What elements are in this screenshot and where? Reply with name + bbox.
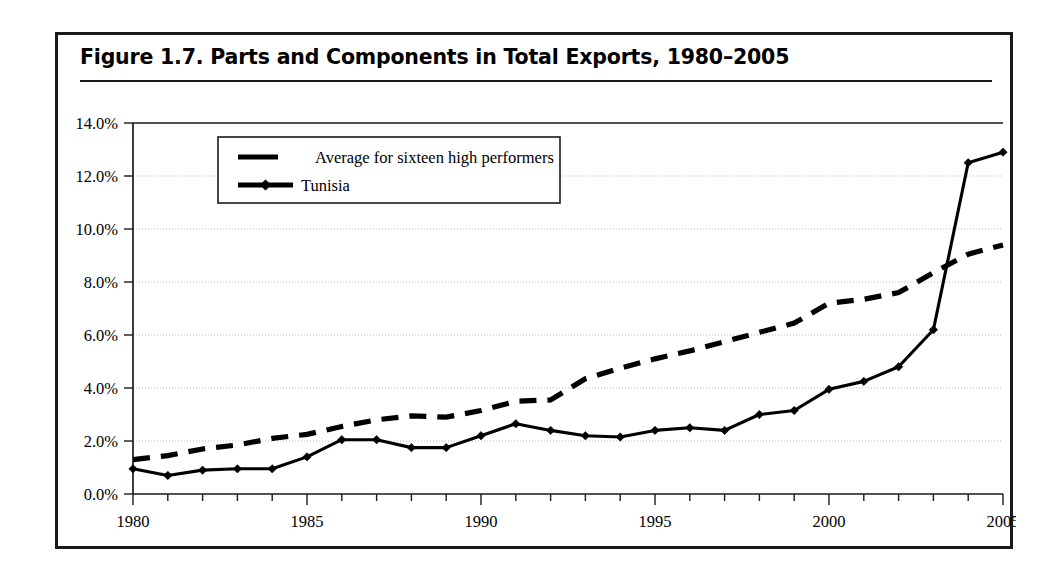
x-axis-tick-marks: [133, 494, 1003, 505]
y-axis-tick-label: 10.0%: [75, 220, 118, 239]
x-axis-tick-label: 1985: [291, 512, 324, 531]
chart-plot-area: 0.0%2.0%4.0%6.0%8.0%10.0%12.0%14.0% 1980…: [58, 35, 1016, 552]
y-axis-tick-label: 6.0%: [84, 326, 119, 345]
y-axis-tick-label: 14.0%: [75, 114, 118, 133]
chart-legend[interactable]: Average for sixteen high performersTunis…: [218, 137, 560, 203]
legend-label-tunisia: Tunisia: [301, 176, 351, 195]
data-point-marker: [442, 443, 450, 451]
x-axis-tick-label: 2000: [813, 512, 846, 531]
gridlines: [133, 176, 1003, 441]
legend-label-average-high-performers: Average for sixteen high performers: [315, 148, 554, 167]
data-point-marker: [129, 465, 137, 473]
figure-container: Figure 1.7. Parts and Components in Tota…: [55, 32, 1013, 549]
data-point-marker: [546, 426, 554, 434]
data-point-marker: [616, 433, 624, 441]
y-axis-tick-label: 0.0%: [84, 485, 119, 504]
data-point-marker: [198, 466, 206, 474]
data-point-marker: [512, 420, 520, 428]
series-line-average-high-performers: [133, 245, 1003, 460]
data-point-marker: [999, 148, 1007, 156]
data-point-marker: [581, 432, 589, 440]
data-point-marker: [372, 435, 380, 443]
data-point-marker: [164, 471, 172, 479]
data-point-marker: [964, 159, 972, 167]
data-point-marker: [860, 377, 868, 385]
data-point-marker: [233, 465, 241, 473]
x-axis-tick-labels: 198019851990199520002005: [117, 512, 1017, 531]
line-chart-svg: 0.0%2.0%4.0%6.0%8.0%10.0%12.0%14.0% 1980…: [58, 35, 1016, 552]
y-axis-tick-label: 2.0%: [84, 432, 119, 451]
x-axis-tick-label: 2005: [987, 512, 1017, 531]
legend-box: [218, 137, 560, 203]
y-axis-tick-label: 12.0%: [75, 167, 118, 186]
y-axis-tick-labels: 0.0%2.0%4.0%6.0%8.0%10.0%12.0%14.0%: [75, 114, 118, 504]
x-axis-tick-label: 1990: [465, 512, 498, 531]
x-axis-tick-label: 1980: [117, 512, 150, 531]
y-axis-tick-label: 8.0%: [84, 273, 119, 292]
data-point-marker: [477, 432, 485, 440]
y-axis-tick-marks: [124, 123, 133, 494]
data-point-marker: [268, 465, 276, 473]
data-point-marker: [407, 443, 415, 451]
x-axis-tick-label: 1995: [639, 512, 672, 531]
data-point-marker: [651, 426, 659, 434]
y-axis-tick-label: 4.0%: [84, 379, 119, 398]
data-point-marker: [686, 424, 694, 432]
